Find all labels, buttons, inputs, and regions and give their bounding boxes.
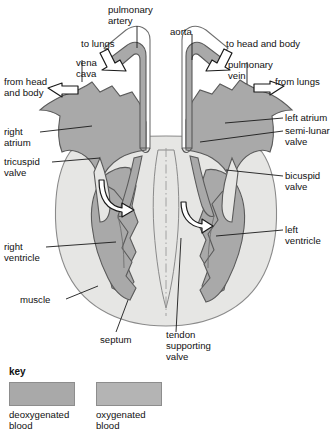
heart-diagram [0,0,333,437]
label-pulmonary-artery: pulmonary artery [108,4,153,26]
label-to-head-and-body: to head and body [226,38,300,49]
label-vena-cava: vena cava [76,57,97,79]
label-tendon-supporting-valve: tendon supporting valve [166,329,211,363]
key-label-deoxygenated: deoxygenated blood [9,409,69,431]
label-right-ventricle: right ventricle [4,241,40,263]
label-pulmonary-vein: pulmonary vein [228,59,273,81]
label-semi-lunar-valve: semi-lunar valve [285,125,330,147]
label-septum: septum [100,334,131,345]
label-tricuspid-valve: tricuspid valve [4,156,40,178]
label-left-ventricle: left ventricle [285,224,321,246]
label-muscle: muscle [20,294,50,305]
label-aorta: aorta [170,26,192,37]
key-label-oxygenated: oxygenated blood [96,409,146,431]
label-to-lungs: to lungs [81,38,115,49]
label-from-head-and-body: from head and body [4,76,47,98]
key-swatch-oxygenated [96,382,162,406]
key-swatch-deoxygenated [9,382,75,406]
label-right-atrium: right atrium [4,126,31,148]
label-from-lungs: from lungs [275,76,320,87]
label-left-atrium: left atrium [285,112,327,123]
key-title: key [9,366,26,377]
label-bicuspid-valve: bicuspid valve [285,170,320,192]
